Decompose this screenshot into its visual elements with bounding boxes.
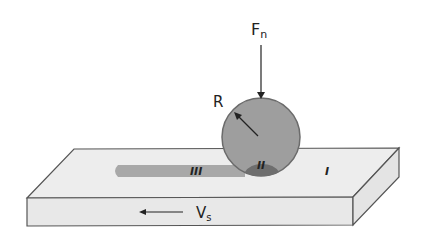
region-2-label: II (257, 159, 265, 172)
tribology-diagram: Fn R Vs I II III (0, 0, 426, 239)
force-label: Fn (251, 20, 267, 41)
region-1-label: I (325, 165, 329, 178)
region-3-label: III (190, 165, 202, 178)
force-arrow-icon (257, 45, 265, 99)
wear-track (115, 165, 245, 177)
radius-label: R (213, 93, 223, 111)
plate-front-face (27, 197, 353, 226)
